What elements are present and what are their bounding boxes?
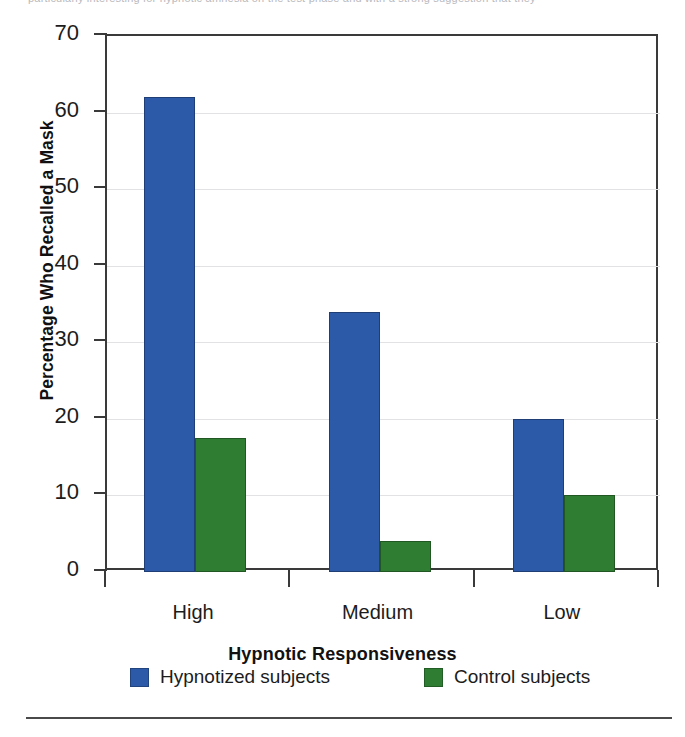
y-axis-tick-label: 20 [33,405,79,427]
bar [144,97,195,572]
x-axis-tick-label: Low [492,601,632,623]
y-axis-tick-label: 70 [33,22,79,44]
bar [195,438,246,572]
legend-swatch-icon [130,668,149,687]
bar [513,419,564,572]
y-axis-tick-label: 10 [33,481,79,503]
chart-legend: Hypnotized subjectsControl subjects [0,664,685,694]
y-axis-tick-label: 40 [33,252,79,274]
bar [329,312,380,572]
legend-label: Control subjects [454,666,590,688]
y-axis-tick-label: 60 [33,99,79,121]
bottom-divider-rule [26,717,672,719]
x-axis-tick-mark [473,570,475,587]
legend-item[interactable]: Hypnotized subjects [130,664,330,690]
x-axis-tick-label: High [123,601,263,623]
x-axis-tick-mark [657,570,659,587]
plot-area [105,34,658,570]
legend-label: Hypnotized subjects [160,666,330,688]
y-axis-tick-label: 50 [33,175,79,197]
bar [380,541,431,572]
x-axis-tick-mark [288,570,290,587]
legend-item[interactable]: Control subjects [424,664,590,690]
y-axis-tick-label: 0 [33,558,79,580]
x-axis-title: Hypnotic Responsiveness [0,644,685,665]
bar [564,495,615,572]
bar-chart-figure: Percentage Who Recalled a Mask 010203040… [0,0,685,737]
legend-swatch-icon [424,668,443,687]
y-axis-tick-label: 30 [33,328,79,350]
x-axis-tick-label: Medium [308,601,448,623]
x-axis-tick-mark [104,570,106,587]
